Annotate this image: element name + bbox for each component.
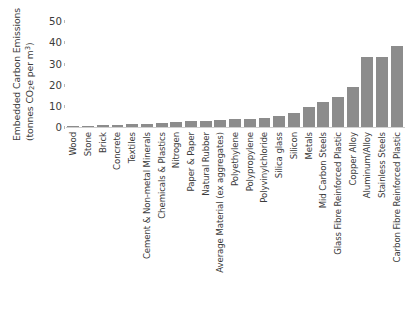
x-axis-tick-label: Chemicals & Plastics: [157, 132, 167, 219]
x-axis-tick-label: Polyvinylchloride: [259, 132, 269, 203]
y-axis-tick-mark: [64, 126, 65, 129]
bar: [126, 124, 138, 127]
x-axis-line: [66, 127, 405, 128]
bar: [288, 113, 300, 127]
x-axis-tick-label: Copper Alloy: [348, 132, 358, 186]
y-axis-tick-mark: [64, 20, 65, 23]
x-axis-tick-label: Wood: [68, 132, 78, 156]
bar: [332, 97, 344, 127]
y-axis-title: Embedded Carbon Emissions (tonnes CO2e p…: [0, 0, 34, 145]
y-axis-title-line2-prefix: (tonnes CO: [24, 90, 35, 141]
x-label-slot: Carbon Fibre Reinforced Plastic: [389, 130, 404, 312]
x-axis-tick-label: Brick: [98, 132, 108, 153]
bar: [185, 121, 197, 127]
x-label-slot: Average Material (ex aggregates): [213, 130, 228, 312]
x-label-slot: Silicon: [287, 130, 302, 312]
y-axis-tick-label: 10: [49, 100, 62, 111]
bar-slot: [257, 17, 272, 127]
bar: [200, 121, 212, 127]
y-axis-title-line1: Embedded Carbon Emissions: [11, 8, 22, 141]
y-axis-tick-label: 40: [49, 37, 62, 48]
bar: [214, 120, 226, 127]
x-axis-tick-label: Polypropylene: [245, 132, 255, 191]
x-axis-tick-label: Silica glass: [274, 132, 284, 178]
bar: [141, 124, 153, 127]
x-axis-tick-label: Natural Rubber: [201, 132, 211, 196]
x-label-slot: Concrete: [110, 130, 125, 312]
bar-slot: [242, 17, 257, 127]
bar-slot: [154, 17, 169, 127]
bar-slot: [389, 17, 404, 127]
bar-slot: [66, 17, 81, 127]
bar-slot: [140, 17, 155, 127]
bar: [303, 107, 315, 127]
x-axis-tick-label: Silicon: [289, 132, 299, 159]
bar: [67, 126, 79, 127]
bar-slot: [345, 17, 360, 127]
y-axis-tick-mark: [64, 105, 65, 108]
y-axis-tick-mark: [64, 84, 65, 87]
x-label-slot: Metals: [301, 130, 316, 312]
bar: [376, 57, 388, 127]
x-axis-tick-label: Stainless Steels: [377, 132, 387, 198]
y-axis-tick-label: 30: [49, 58, 62, 69]
x-axis-tick-label: Average Material (ex aggregates): [215, 132, 225, 273]
x-axis-tick-label: Cement & Non-metal Minerals: [142, 132, 152, 259]
x-label-slot: Cement & Non-metal Minerals: [140, 130, 155, 312]
x-axis-tick-label: Metals: [304, 132, 314, 160]
bar-slot: [331, 17, 346, 127]
x-axis-tick-label: Concrete: [112, 132, 122, 170]
y-axis-tick-label: 50: [49, 16, 62, 27]
x-label-slot: Mid Carbon Steels: [316, 130, 331, 312]
bar-slot: [198, 17, 213, 127]
bar-slot: [110, 17, 125, 127]
y-axis-title-line2: (tonnes CO2e per m3): [24, 42, 36, 141]
y-axis-tick-mark: [64, 63, 65, 66]
x-label-slot: Glass Fibre Reinforced Plastic: [331, 130, 346, 312]
bar: [170, 122, 182, 127]
bar: [317, 102, 329, 127]
x-label-slot: Polypropylene: [242, 130, 257, 312]
y-axis-title-line2-mid: e per m: [24, 50, 35, 85]
bar-slot: [184, 17, 199, 127]
bar: [229, 119, 241, 127]
bar-slot: [125, 17, 140, 127]
x-label-slot: Silica glass: [272, 130, 287, 312]
x-axis-tick-label: Aluminum/Alloy: [362, 132, 372, 198]
x-axis-tick-label: Glass Fibre Reinforced Plastic: [333, 132, 343, 255]
x-label-slot: Textiles: [125, 130, 140, 312]
x-axis-tick-labels: WoodStoneBrickConcreteTextilesCement & N…: [66, 130, 404, 312]
bar: [82, 126, 94, 127]
x-label-slot: Copper Alloy: [345, 130, 360, 312]
y-axis-tick-label: 20: [49, 79, 62, 90]
x-label-slot: Stainless Steels: [375, 130, 390, 312]
bar-slot: [81, 17, 96, 127]
bar-series: [66, 17, 404, 127]
x-label-slot: Wood: [66, 130, 81, 312]
bar: [361, 57, 373, 127]
bar-slot: [169, 17, 184, 127]
bar: [259, 118, 271, 127]
bar: [112, 125, 124, 127]
bar: [156, 123, 168, 127]
x-axis-tick-label: Polyethylene: [230, 132, 240, 186]
x-axis-tick-label: Carbon Fibre Reinforced Plastic: [392, 132, 402, 262]
x-axis-tick-label: Paper & Paper: [186, 132, 196, 192]
bar-slot: [375, 17, 390, 127]
x-label-slot: Brick: [95, 130, 110, 312]
y-axis-title-line2-sup: 3: [24, 46, 32, 50]
bar-slot: [287, 17, 302, 127]
x-label-slot: Polyvinylchloride: [257, 130, 272, 312]
bar: [244, 119, 256, 127]
x-label-slot: Paper & Paper: [184, 130, 199, 312]
x-label-slot: Nitrogen: [169, 130, 184, 312]
x-axis-tick-label: Nitrogen: [171, 132, 181, 168]
bar-slot: [213, 17, 228, 127]
bar-slot: [360, 17, 375, 127]
y-axis-title-line2-suffix: ): [24, 42, 35, 46]
bar: [347, 87, 359, 127]
bar-slot: [228, 17, 243, 127]
x-label-slot: Natural Rubber: [198, 130, 213, 312]
bar-slot: [95, 17, 110, 127]
x-axis-tick-label: Mid Carbon Steels: [318, 132, 328, 208]
